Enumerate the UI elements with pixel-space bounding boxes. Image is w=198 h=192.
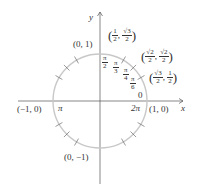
y-axis-label: y xyxy=(89,13,93,22)
angle-pi-over-3-label: π3 xyxy=(113,60,119,75)
point-60deg-label: (12, √32) xyxy=(108,28,136,43)
point-45deg-label: (√22, √22) xyxy=(141,49,173,64)
angle-pi-label: π xyxy=(58,104,63,113)
angle-two-pi-label: 2π xyxy=(131,104,140,113)
unit-circle-graphic xyxy=(0,0,198,192)
point-bottom-label: (0, −1) xyxy=(64,153,89,162)
point-left-label: (−1, 0) xyxy=(17,105,42,114)
angle-pi-over-2-label: π2 xyxy=(102,55,108,70)
angle-pi-over-4-label: π4 xyxy=(123,67,129,82)
point-top-label: (0, 1) xyxy=(73,40,93,49)
x-axis-label: x xyxy=(181,104,185,113)
point-30deg-label: (√32, 12) xyxy=(149,70,177,85)
angle-pi-over-6-label: π6 xyxy=(130,76,136,91)
point-right-label: (1, 0) xyxy=(149,105,169,114)
angle-zero-label: 0 xyxy=(138,91,143,100)
